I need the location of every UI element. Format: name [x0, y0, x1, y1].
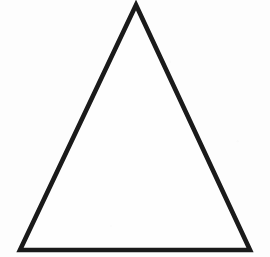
triangle-diagram [0, 0, 270, 257]
drawing-canvas [0, 0, 270, 257]
triangle-shape [20, 5, 250, 250]
